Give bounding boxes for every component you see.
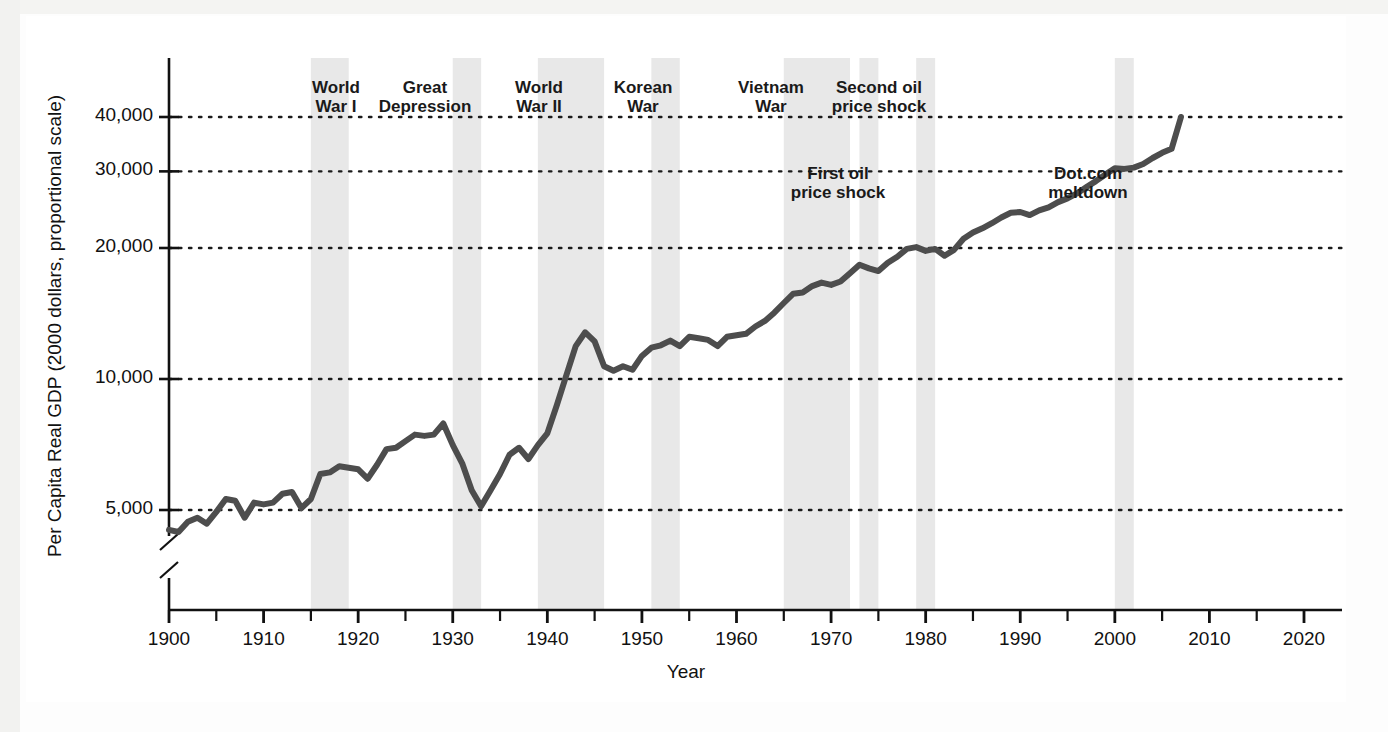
- y-tick-label: 5,000: [33, 497, 153, 519]
- x-tick-label: 1900: [124, 628, 214, 650]
- recession-band: [916, 58, 935, 610]
- y-tick-label: 20,000: [33, 235, 153, 257]
- y-tick-label: 10,000: [33, 366, 153, 388]
- recession-band: [538, 58, 604, 610]
- recession-band: [784, 58, 850, 610]
- annotation-dotcom-meltdown: Dot.com meltdown: [1023, 164, 1153, 202]
- recession-band: [453, 58, 481, 610]
- chart-card: Per Capita Real GDP (2000 dollars, propo…: [26, 16, 1346, 702]
- x-tick-label: 1990: [975, 628, 1065, 650]
- x-tick-label: 1980: [881, 628, 971, 650]
- x-axis-title: Year: [26, 661, 1346, 683]
- x-tick-label: 2010: [1164, 628, 1254, 650]
- x-tick-label: 1970: [786, 628, 876, 650]
- figure-page: Per Capita Real GDP (2000 dollars, propo…: [0, 0, 1388, 732]
- x-tick-label: 1950: [597, 628, 687, 650]
- y-tick-label: 40,000: [33, 104, 153, 126]
- x-tick-label: 2000: [1070, 628, 1160, 650]
- x-tick-label: 1930: [408, 628, 498, 650]
- chart-canvas: [26, 16, 1346, 702]
- recession-band: [651, 58, 679, 610]
- x-tick-label: 1910: [219, 628, 309, 650]
- recession-band: [1115, 58, 1134, 610]
- x-tick-label: 1920: [313, 628, 403, 650]
- x-tick-label: 1960: [692, 628, 782, 650]
- x-tick-label: 1940: [502, 628, 592, 650]
- y-tick-label: 30,000: [33, 158, 153, 180]
- axis-break-slash: [160, 562, 178, 578]
- annotation-first-oil-shock: First oil price shock: [773, 164, 903, 202]
- annotation-second-oil-shock: Second oil price shock: [814, 78, 944, 116]
- axis-break-slash: [160, 534, 178, 550]
- x-tick-label: 2020: [1259, 628, 1349, 650]
- recession-band: [859, 58, 878, 610]
- plot-area: Per Capita Real GDP (2000 dollars, propo…: [26, 16, 1346, 702]
- recession-band: [311, 58, 349, 610]
- annotation-korean-war: Korean War: [578, 78, 708, 116]
- annotation-great-depression: Great Depression: [360, 78, 490, 116]
